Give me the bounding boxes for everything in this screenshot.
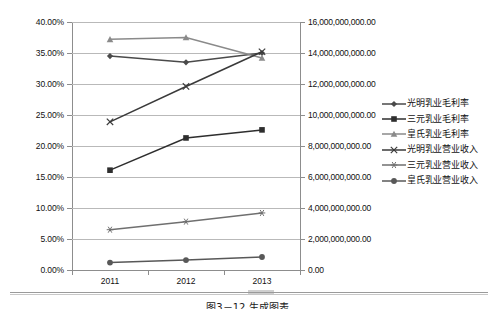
- right-axis-label: 0.00: [308, 265, 324, 275]
- legend-item-1[interactable]: 光明乳业毛利率: [381, 96, 493, 111]
- diamond-marker: [107, 53, 113, 59]
- right-axis-label: 14,000,000,000.00: [308, 48, 376, 58]
- right-axis-tick: [300, 146, 305, 147]
- right-axis-tick: [300, 208, 305, 209]
- right-axis-tick: [300, 177, 305, 178]
- legend-key-triangle-icon: [381, 127, 407, 141]
- x-axis-tick: [300, 270, 301, 275]
- right-axis-label: 12,000,000,000.00: [308, 79, 376, 89]
- square-marker: [183, 135, 189, 141]
- gridline: [72, 270, 300, 271]
- legend-item-4[interactable]: 光明乳业营业收入: [381, 142, 493, 157]
- right-axis-label: 2,000,000,000.00: [308, 234, 371, 244]
- left-axis-label: 20.00%: [36, 141, 64, 151]
- right-axis-label: 10,000,000,000.00: [308, 110, 376, 120]
- left-axis-label: 40.00%: [36, 17, 64, 27]
- right-axis-label: 16,000,000,000.00: [308, 17, 376, 27]
- left-axis-label: 5.00%: [40, 234, 64, 244]
- legend-item-2[interactable]: 三元乳业毛利率: [381, 111, 493, 126]
- diamond-marker: [391, 101, 397, 107]
- circle-marker: [259, 254, 265, 260]
- x-marker: [107, 119, 113, 125]
- legend-key-diamond-icon: [381, 97, 407, 111]
- legend-key-circle-icon: [381, 174, 407, 188]
- x-axis-tick: [148, 270, 149, 275]
- legend-label: 光明乳业毛利率: [407, 99, 469, 108]
- legend-item-5[interactable]: 三元乳业营业收入: [381, 158, 493, 173]
- left-axis-label: 25.00%: [36, 110, 64, 120]
- figure-caption: 图3－12 生成图表: [0, 299, 495, 309]
- legend-label: 三元乳业毛利率: [407, 115, 469, 124]
- asterisk-marker: [107, 227, 114, 233]
- legend-key-square-icon: [381, 112, 407, 126]
- series-3: [107, 34, 266, 61]
- legend-label: 皇氏乳业毛利率: [407, 130, 469, 139]
- figure-container: 40.00%35.00%30.00%25.00%20.00%15.00%10.0…: [0, 0, 495, 309]
- square-marker: [107, 167, 113, 173]
- series-plot: [72, 22, 300, 270]
- square-marker: [259, 127, 265, 133]
- left-axis-label: 35.00%: [36, 48, 64, 58]
- diamond-marker: [183, 59, 189, 65]
- circle-marker: [107, 260, 113, 266]
- chart-legend: 光明乳业毛利率三元乳业毛利率皇氏乳业毛利率光明乳业营业收入三元乳业营业收入皇氏乳…: [381, 96, 493, 188]
- x-axis-tick: [224, 270, 225, 275]
- right-axis-tick: [300, 53, 305, 54]
- right-axis-tick: [300, 22, 305, 23]
- square-marker: [391, 116, 397, 122]
- right-axis-label: 6,000,000,000.00: [308, 172, 371, 182]
- x-axis-label: 2012: [177, 276, 196, 286]
- right-axis-label: 4,000,000,000.00: [308, 203, 371, 213]
- right-axis-tick: [300, 115, 305, 116]
- footer-divider-2: [10, 294, 488, 295]
- left-axis-label: 0.00%: [40, 265, 64, 275]
- chart-plot-area: 40.00%35.00%30.00%25.00%20.00%15.00%10.0…: [72, 22, 300, 270]
- x-marker: [183, 83, 189, 89]
- asterisk-marker: [183, 219, 190, 225]
- legend-label: 皇氏乳业营业收入: [407, 176, 477, 185]
- left-axis-label: 30.00%: [36, 79, 64, 89]
- series-5: [107, 210, 266, 233]
- asterisk-marker: [391, 162, 398, 168]
- legend-key-asterisk-icon: [381, 158, 407, 172]
- x-axis-label: 2011: [101, 276, 119, 286]
- series-6: [107, 254, 265, 265]
- footer-divider: [10, 292, 488, 293]
- right-axis-tick: [300, 239, 305, 240]
- legend-label: 光明乳业营业收入: [407, 145, 477, 154]
- legend-item-6[interactable]: 皇氏乳业营业收入: [381, 173, 493, 188]
- series-2: [107, 127, 265, 173]
- left-axis-label: 10.00%: [36, 203, 64, 213]
- circle-marker: [391, 178, 397, 184]
- right-axis-label: 8,000,000,000.00: [308, 141, 371, 151]
- left-axis-label: 15.00%: [36, 172, 64, 182]
- x-axis-label: 2013: [253, 276, 272, 286]
- legend-key-x-icon: [381, 143, 407, 157]
- legend-item-3[interactable]: 皇氏乳业毛利率: [381, 127, 493, 142]
- right-axis-tick: [300, 84, 305, 85]
- legend-label: 三元乳业营业收入: [407, 161, 477, 170]
- x-axis-tick: [72, 270, 73, 275]
- series-line: [110, 38, 262, 58]
- circle-marker: [183, 257, 189, 263]
- asterisk-marker: [259, 210, 266, 216]
